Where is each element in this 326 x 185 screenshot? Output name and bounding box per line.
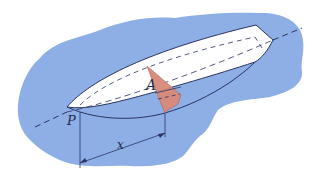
label-point-p: P	[67, 114, 76, 127]
label-area-a: A	[146, 78, 156, 92]
label-distance-x: x	[117, 139, 124, 151]
boat-diagram	[0, 0, 326, 185]
